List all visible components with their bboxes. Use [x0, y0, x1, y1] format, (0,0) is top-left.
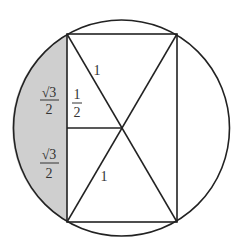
label-one-half: 1 2 [72, 87, 82, 120]
svg-text:√3: √3 [42, 85, 57, 100]
svg-text:√3: √3 [42, 147, 57, 162]
shaded-segment [12, 34, 67, 222]
label-diagonal-upper: 1 [94, 63, 101, 78]
svg-text:2: 2 [46, 166, 53, 181]
svg-text:2: 2 [74, 105, 81, 120]
label-diagonal-lower: 1 [101, 169, 108, 184]
geometry-diagram: √3 2 1 2 √3 2 1 1 [0, 0, 241, 247]
svg-text:2: 2 [46, 102, 53, 117]
svg-text:1: 1 [74, 87, 81, 102]
